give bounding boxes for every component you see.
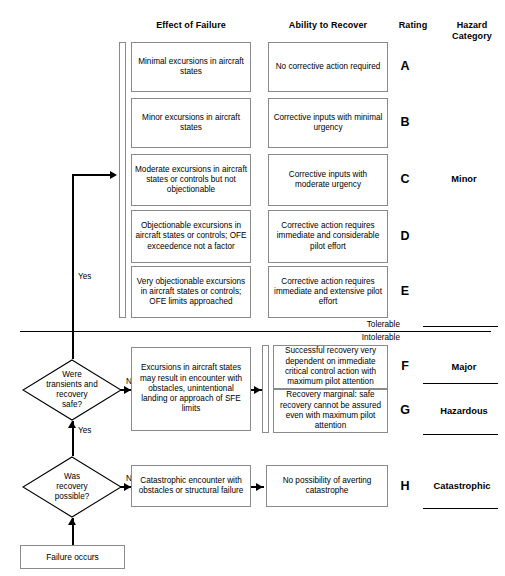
hazard-header-line2: Category	[452, 31, 492, 41]
hazard-header-line1: Hazard	[457, 20, 488, 30]
decision-2-label: Was recovery possible?	[22, 456, 122, 518]
header-rating: Rating	[392, 20, 434, 31]
rating-a: A	[394, 59, 416, 73]
arrow-into-decision-2	[68, 518, 76, 525]
hazard-rule-hazardous-bottom	[423, 434, 498, 435]
effect-box-a: Minimal excursions in aircraft states	[131, 42, 251, 92]
arrow-into-decision-1	[68, 421, 76, 428]
recover-box-h: No possibility of averting catastrophe	[266, 465, 388, 507]
decision-2-line3: possible?	[55, 492, 90, 502]
hazard-rule-minor-bottom	[423, 326, 498, 327]
arrow-into-upper-bracket	[110, 171, 117, 179]
effect-group-bracket-upper	[119, 42, 126, 318]
effect-box-catastrophic: Catastrophic encounter with obstacles or…	[131, 465, 251, 507]
decision-was-recovery-possible: Was recovery possible?	[22, 456, 122, 518]
recover-box-e: Corrective action requires immediate and…	[268, 266, 388, 318]
decision-1-label: Were transients and recovery safe?	[22, 359, 122, 421]
decision-1-line3: recovery	[56, 390, 87, 400]
rating-c: C	[394, 172, 416, 186]
flowchart-canvas: Effect of Failure Ability to Recover Rat…	[0, 0, 505, 576]
recover-box-a: No corrective action required	[268, 42, 388, 92]
header-effect-of-failure: Effect of Failure	[131, 20, 251, 31]
arrow-into-effect-box-major	[124, 386, 131, 394]
recover-group-bracket-fg	[262, 345, 269, 433]
label-yes-lower: Yes	[78, 426, 91, 436]
rating-d: D	[394, 229, 416, 243]
hazard-rule-major-bottom	[423, 383, 498, 384]
effect-box-b: Minor excursions in aircraft states	[131, 98, 251, 148]
hazard-major: Major	[430, 362, 498, 372]
rating-b: B	[394, 115, 416, 129]
arrow-into-effect-box-catastrophic	[124, 483, 131, 491]
decision-2-line2: recovery	[56, 482, 87, 492]
header-ability-to-recover: Ability to Recover	[268, 20, 388, 31]
label-tolerable: Tolerable	[340, 320, 400, 330]
hazard-rule-catastrophic-bottom	[423, 508, 498, 509]
rating-g: G	[394, 403, 416, 417]
start-box-failure-occurs: Failure occurs	[20, 545, 125, 569]
label-intolerable: Intolerable	[340, 333, 400, 343]
recover-box-b: Corrective inputs with minimal urgency	[268, 98, 388, 148]
rating-f: F	[394, 359, 416, 373]
effect-box-c: Moderate excursions in aircraft states o…	[131, 154, 251, 206]
decision-1-line1: Were	[62, 370, 81, 380]
recover-box-c: Corrective inputs with moderate urgency	[268, 154, 388, 206]
label-yes-upper: Yes	[78, 272, 91, 282]
recover-box-d: Corrective action requires immediate and…	[268, 210, 388, 263]
rating-h: H	[394, 479, 416, 493]
rating-e: E	[394, 284, 416, 298]
hazard-minor: Minor	[430, 174, 498, 184]
hazard-catastrophic: Catastrophic	[421, 481, 503, 491]
connector-yes-horizontal-upper	[72, 174, 112, 176]
arrow-into-fg-bracket	[254, 386, 261, 394]
header-hazard-category: Hazard Category	[443, 20, 501, 42]
decision-2-line1: Was	[64, 472, 80, 482]
decision-were-transients-and-recovery-safe: Were transients and recovery safe?	[22, 359, 122, 421]
recover-box-g: Recovery marginal: safe recovery cannot …	[273, 389, 388, 433]
tolerance-divider-line	[20, 331, 491, 332]
decision-1-line2: transients and	[46, 380, 97, 390]
hazard-hazardous: Hazardous	[427, 406, 501, 416]
effect-box-d: Objectionable excursions in aircraft sta…	[131, 210, 251, 263]
arrow-into-recover-box-h	[256, 483, 263, 491]
effect-box-e: Very objectionable excursions in aircraf…	[131, 266, 251, 318]
effect-box-major-hazardous: Excursions in aircraft states may result…	[131, 347, 251, 431]
connector-yes-vertical-upper	[72, 175, 74, 359]
decision-1-line4: safe?	[62, 400, 82, 410]
recover-box-f: Successful recovery very dependent on im…	[273, 345, 388, 389]
